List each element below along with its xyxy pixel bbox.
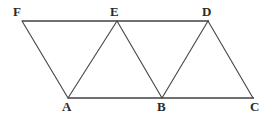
segment-d-c — [208, 21, 253, 98]
vertex-label-b: B — [157, 100, 166, 113]
segments-group — [22, 21, 254, 98]
segment-f-a — [22, 21, 68, 98]
vertex-label-d: D — [202, 5, 211, 18]
vertex-label-e: E — [110, 5, 119, 18]
vertex-label-c: C — [250, 100, 259, 113]
vertex-label-a: A — [62, 100, 71, 113]
segment-b-d — [162, 21, 208, 98]
geometry-figure: FEDABC — [0, 0, 276, 118]
segment-e-b — [117, 21, 162, 98]
segment-a-e — [68, 21, 117, 98]
vertex-label-f: F — [13, 5, 21, 18]
figure-canvas — [0, 0, 276, 118]
